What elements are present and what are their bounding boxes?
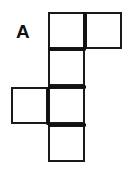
cube-net-figure: A bbox=[0, 0, 129, 175]
net-cell-bottom-row bbox=[48, 125, 85, 162]
net-cell-third-row bbox=[48, 87, 85, 124]
net-cell-second-row bbox=[48, 49, 85, 86]
figure-label-a: A bbox=[16, 22, 30, 41]
net-cell-top-left bbox=[48, 12, 85, 49]
net-cell-top-right bbox=[85, 12, 122, 49]
net-cell-third-row-left bbox=[11, 87, 48, 124]
